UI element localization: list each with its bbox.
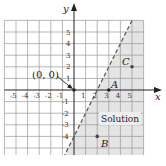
inequality-graph: x y -5 -4 -3 -2 -1 1 2 3 4 5 1 2 3 4 5 -… bbox=[0, 0, 166, 166]
svg-text:-5: -5 bbox=[10, 92, 17, 100]
svg-text:5: 5 bbox=[66, 29, 70, 37]
point-b bbox=[95, 135, 99, 139]
svg-text:-2: -2 bbox=[62, 110, 69, 118]
svg-text:2: 2 bbox=[66, 63, 70, 71]
svg-text:2: 2 bbox=[93, 92, 97, 100]
svg-text:-4: -4 bbox=[22, 92, 29, 100]
origin-label: (0, 0) bbox=[32, 69, 59, 80]
svg-text:-3: -3 bbox=[62, 121, 69, 129]
y-axis-label: y bbox=[62, 3, 69, 14]
point-origin bbox=[72, 88, 76, 92]
svg-text:1: 1 bbox=[81, 92, 85, 100]
point-c bbox=[130, 65, 134, 69]
svg-text:4: 4 bbox=[116, 92, 121, 100]
x-axis-label: x bbox=[155, 91, 161, 102]
svg-text:3: 3 bbox=[104, 92, 108, 100]
svg-text:-4: -4 bbox=[62, 133, 69, 141]
point-b-label: B bbox=[100, 138, 108, 149]
svg-text:1: 1 bbox=[66, 75, 70, 83]
svg-text:-3: -3 bbox=[33, 92, 40, 100]
svg-text:4: 4 bbox=[66, 40, 71, 48]
svg-text:5: 5 bbox=[127, 92, 131, 100]
svg-text:-2: -2 bbox=[45, 92, 52, 100]
svg-text:3: 3 bbox=[66, 52, 70, 60]
y-axis-arrow-icon bbox=[71, 3, 77, 11]
point-a-label: A bbox=[110, 79, 118, 90]
solution-label: Solution bbox=[101, 114, 139, 124]
svg-text:-1: -1 bbox=[62, 98, 69, 106]
point-c-label: C bbox=[122, 56, 130, 67]
